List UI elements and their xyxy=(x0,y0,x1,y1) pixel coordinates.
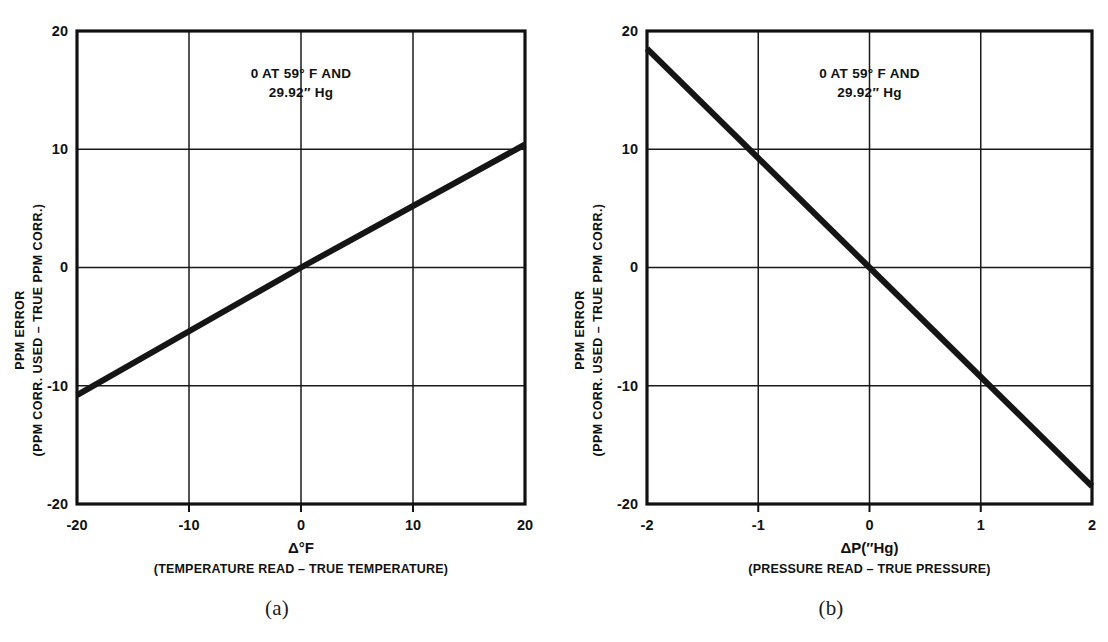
x-axis-label-line2: (TEMPERATURE READ – TRUE TEMPERATURE) xyxy=(154,562,448,576)
plot-b-area: PPM ERROR (PPM CORR. USED – TRUE PPM COR… xyxy=(554,0,1108,600)
x-tick-label-neg10: -10 xyxy=(179,517,200,533)
y-tick-label-neg10: -10 xyxy=(47,378,68,394)
y-tick-label-10: 10 xyxy=(52,141,68,157)
y-axis-label-line1: PPM ERROR xyxy=(13,290,27,369)
chart-a-svg: PPM ERROR (PPM CORR. USED – TRUE PPM COR… xyxy=(0,0,554,600)
y-tick-label-neg20: -20 xyxy=(617,496,638,512)
x-tick-label-20: 20 xyxy=(517,517,533,533)
chart-b-svg: PPM ERROR (PPM CORR. USED – TRUE PPM COR… xyxy=(554,0,1108,600)
y-axis-label-line2: (PPM CORR. USED – TRUE PPM CORR.) xyxy=(591,204,605,457)
y-tick-label-20: 20 xyxy=(52,23,68,39)
annotation-line1: 0 AT 59° F AND xyxy=(251,66,352,81)
x-tick-label-0: 0 xyxy=(865,517,873,533)
x-tick-label-10: 10 xyxy=(405,517,421,533)
y-tick-label-0: 0 xyxy=(60,259,68,275)
panel-caption-a: (a) xyxy=(0,596,554,621)
annotation-line1: 0 AT 59° F AND xyxy=(819,66,920,81)
x-tick-label-neg2: -2 xyxy=(641,517,654,533)
x-tick-label-neg1: -1 xyxy=(752,517,765,533)
panel-caption-b: (b) xyxy=(554,596,1108,621)
x-tick-label-1: 1 xyxy=(977,517,985,533)
y-tick-label-neg10: -10 xyxy=(617,378,638,394)
y-tick-label-0: 0 xyxy=(630,259,638,275)
y-axis-label-line2: (PPM CORR. USED – TRUE PPM CORR.) xyxy=(31,204,45,457)
figure-two-panel-chart: PPM ERROR (PPM CORR. USED – TRUE PPM COR… xyxy=(0,0,1108,642)
x-axis-label-line1: Δ°F xyxy=(288,539,314,556)
x-tick-label-0: 0 xyxy=(297,517,305,533)
x-tick-label-neg20: -20 xyxy=(67,517,88,533)
annotation-line2: 29.92″ Hg xyxy=(269,85,334,100)
x-axis-label-line1: ΔP(″Hg) xyxy=(841,539,899,556)
x-tick-label-2: 2 xyxy=(1088,517,1096,533)
x-axis-label-line2: (PRESSURE READ – TRUE PRESSURE) xyxy=(748,562,990,576)
annotation-line2: 29.92″ Hg xyxy=(837,85,902,100)
panel-b: PPM ERROR (PPM CORR. USED – TRUE PPM COR… xyxy=(554,0,1108,642)
y-tick-label-20: 20 xyxy=(622,23,638,39)
plot-a-area: PPM ERROR (PPM CORR. USED – TRUE PPM COR… xyxy=(0,0,554,600)
y-axis-label-line1: PPM ERROR xyxy=(573,290,587,369)
panel-a: PPM ERROR (PPM CORR. USED – TRUE PPM COR… xyxy=(0,0,554,642)
y-tick-label-neg20: -20 xyxy=(47,496,68,512)
y-tick-label-10: 10 xyxy=(622,141,638,157)
